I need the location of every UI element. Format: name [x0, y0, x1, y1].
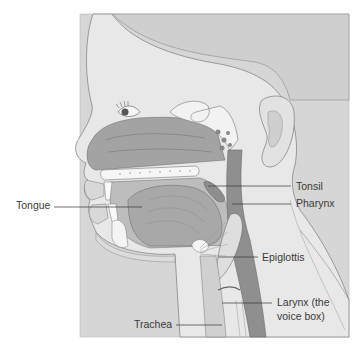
label-larynx-line2: voice box)	[277, 310, 325, 322]
label-pharynx: Pharynx	[296, 197, 335, 209]
label-tonsil: Tonsil	[296, 180, 323, 192]
label-tongue: Tongue	[16, 199, 50, 211]
label-trachea: Trachea	[134, 318, 172, 330]
label-epiglottis: Epiglottis	[262, 251, 305, 263]
anatomy-diagram: Tongue Tonsil Pharynx Epiglottis Larynx …	[0, 0, 359, 356]
label-larynx-line1: Larynx (the	[277, 296, 330, 308]
